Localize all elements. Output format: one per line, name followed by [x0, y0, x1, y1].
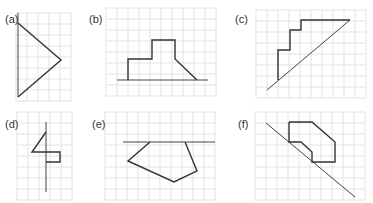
panel-label-f: (f) — [238, 118, 248, 130]
grid — [255, 112, 365, 200]
shape-outline — [18, 23, 61, 97]
panel-a — [16, 13, 71, 101]
grid — [17, 112, 72, 200]
panel-f — [255, 112, 365, 200]
panel-e — [105, 112, 215, 200]
mirror-line — [267, 20, 350, 90]
grid — [105, 112, 215, 200]
grid — [16, 13, 71, 101]
panel-label-c: (c) — [235, 13, 248, 25]
panel-label-e: (e) — [92, 118, 105, 130]
panel-d — [17, 112, 72, 200]
panel-label-a: (a) — [5, 13, 18, 25]
grid — [106, 8, 216, 96]
panel-c — [256, 10, 366, 98]
reflection-diagram — [0, 0, 373, 203]
panel-label-d: (d) — [5, 118, 18, 130]
panel-b — [106, 8, 216, 96]
panel-label-b: (b) — [89, 13, 102, 25]
